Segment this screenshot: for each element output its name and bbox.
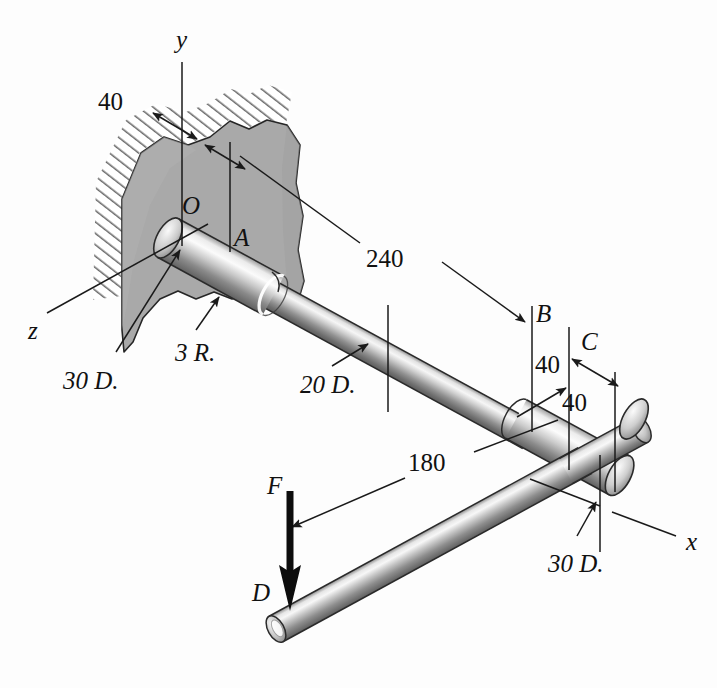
force-arrow-F xyxy=(279,491,301,611)
leader-30d-right xyxy=(577,502,596,536)
force-label-F: F xyxy=(267,473,282,498)
point-label-C: C xyxy=(581,329,598,354)
leader-3r xyxy=(196,297,219,330)
dimension-180: 180 xyxy=(408,450,446,475)
axis-label-x: x xyxy=(686,529,697,554)
dimension-240: 240 xyxy=(366,246,404,271)
axis-label-z: z xyxy=(28,318,38,343)
point-label-O: O xyxy=(182,193,200,218)
lower-arm-to-D xyxy=(262,448,592,646)
note-3-r: 3 R. xyxy=(175,340,215,365)
note-20-d: 20 D. xyxy=(300,372,356,397)
axis-label-y: y xyxy=(176,27,187,52)
x-axis-line xyxy=(612,512,676,536)
engineering-figure: y z x O A B C D F 40 240 40 40 180 30 D.… xyxy=(0,0,717,688)
dimension-40-c-to-end: 40 xyxy=(562,390,587,415)
dimension-40-b-to-c: 40 xyxy=(535,352,560,377)
point-label-B: B xyxy=(536,301,551,326)
point-label-D: D xyxy=(252,580,270,605)
point-label-A: A xyxy=(234,225,249,250)
note-30-d-right: 30 D. xyxy=(548,551,604,576)
dimension-40-wall: 40 xyxy=(98,89,123,114)
note-30-d-left: 30 D. xyxy=(63,368,119,393)
